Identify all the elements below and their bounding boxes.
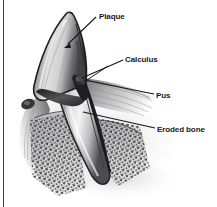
label-eroded-bone: Eroded bone (157, 125, 205, 134)
label-plaque: Plaque (99, 12, 125, 21)
leader-calculus (82, 60, 123, 78)
leader-calculus-branch (84, 66, 108, 82)
label-calculus: Calculus (125, 55, 158, 64)
label-pus: Pus (156, 91, 170, 100)
figure-panel: Plaque Calculus Pus Eroded bone (0, 0, 217, 207)
tooth-periodontal-illustration (0, 0, 217, 207)
